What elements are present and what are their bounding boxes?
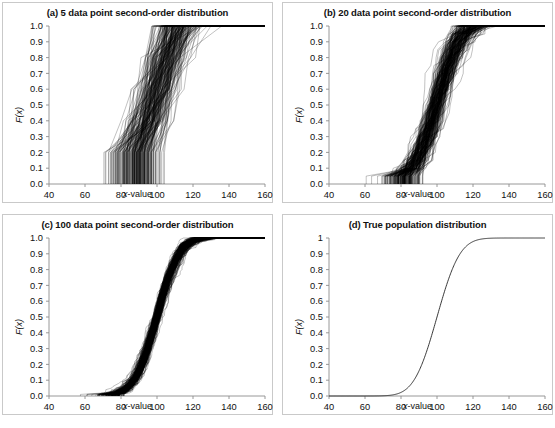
y-tick-label: 0.0 (30, 391, 43, 401)
y-tick-label: 0.8 (30, 53, 43, 63)
y-tick-label: 0.8 (310, 53, 323, 63)
ecdf-curve-bundle (104, 26, 265, 184)
y-tick-label: 0.0 (310, 391, 323, 401)
y-tick-label: 0.2 (310, 148, 323, 158)
y-tick-label: 0.6 (30, 296, 43, 306)
y-tick-label: 0.8 (310, 265, 323, 275)
panel-c-x-axis-label: x-value (3, 401, 272, 411)
y-tick-label: 0.4 (30, 328, 43, 338)
figure-container: (a) 5 data point second-order distributi… (0, 0, 555, 428)
ecdf-curve-bundle (80, 238, 265, 396)
panel-d: (d) True population distribution 10.90.8… (282, 214, 553, 415)
y-tick-label: 0.3 (310, 344, 323, 354)
y-tick-label: 1.0 (30, 21, 43, 31)
panel-c: (c) 100 data point second-order distribu… (2, 214, 273, 415)
y-tick-label: 1.0 (310, 21, 323, 31)
y-tick-label: 0.7 (310, 69, 323, 79)
y-tick-label: 0.7 (30, 281, 43, 291)
panel-d-svg: 10.90.80.70.60.50.40.30.20.10.0406080100… (283, 215, 554, 416)
ecdf-curve-bundle (366, 26, 545, 184)
y-tick-label: 1 (318, 233, 323, 243)
y-tick-label: 0.4 (310, 328, 323, 338)
y-tick-label: 0.2 (30, 148, 43, 158)
y-tick-label: 0.9 (30, 249, 43, 259)
y-tick-label: 0.3 (30, 344, 43, 354)
panel-c-y-axis-label: F(x) (14, 319, 24, 335)
panel-a-plot: 1.00.90.80.70.60.50.40.30.20.10.04060801… (3, 3, 272, 202)
y-tick-label: 0.7 (30, 69, 43, 79)
panel-a-svg: 1.00.90.80.70.60.50.40.30.20.10.04060801… (3, 3, 274, 204)
y-tick-label: 0.9 (30, 37, 43, 47)
y-tick-label: 0.1 (30, 163, 43, 173)
panel-d-plot: 10.90.80.70.60.50.40.30.20.10.0406080100… (283, 215, 552, 414)
y-tick-label: 0.4 (30, 116, 43, 126)
y-tick-label: 0.5 (310, 100, 323, 110)
panel-c-svg: 1.00.90.80.70.60.50.40.30.20.10.04060801… (3, 215, 274, 416)
y-tick-label: 1.0 (30, 233, 43, 243)
y-tick-label: 0.1 (310, 163, 323, 173)
y-tick-label: 0.0 (30, 179, 43, 189)
y-tick-label: 0.9 (310, 249, 323, 259)
y-tick-label: 0.6 (310, 84, 323, 94)
panel-c-plot: 1.00.90.80.70.60.50.40.30.20.10.04060801… (3, 215, 272, 414)
panel-b-y-axis-label: F(x) (294, 107, 304, 123)
y-tick-label: 0.8 (30, 265, 43, 275)
panel-b-plot: 1.00.90.80.70.60.50.40.30.20.10.04060801… (283, 3, 552, 202)
y-tick-label: 0.2 (310, 360, 323, 370)
y-tick-label: 0.1 (30, 375, 43, 385)
panel-b: (b) 20 data point second-order distribut… (282, 2, 553, 203)
y-tick-label: 0.2 (30, 360, 43, 370)
y-tick-label: 0.7 (310, 281, 323, 291)
y-tick-label: 0.5 (30, 312, 43, 322)
y-tick-label: 0.3 (310, 132, 323, 142)
panel-a-x-axis-label: x-value (3, 189, 272, 199)
panel-d-y-axis-label: F(x) (294, 319, 304, 335)
panel-b-x-axis-label: x-value (283, 189, 552, 199)
y-tick-label: 0.9 (310, 37, 323, 47)
y-tick-label: 0.4 (310, 116, 323, 126)
panel-d-x-axis-label: x-value (283, 401, 552, 411)
y-tick-label: 0.0 (310, 179, 323, 189)
y-tick-label: 0.1 (310, 375, 323, 385)
y-tick-label: 0.6 (310, 296, 323, 306)
panel-a-y-axis-label: F(x) (14, 107, 24, 123)
panel-b-svg: 1.00.90.80.70.60.50.40.30.20.10.04060801… (283, 3, 554, 204)
y-tick-label: 0.5 (310, 312, 323, 322)
y-tick-label: 0.6 (30, 84, 43, 94)
y-tick-label: 0.3 (30, 132, 43, 142)
panel-a: (a) 5 data point second-order distributi… (2, 2, 273, 203)
true-cdf-curve (329, 238, 545, 396)
y-tick-label: 0.5 (30, 100, 43, 110)
